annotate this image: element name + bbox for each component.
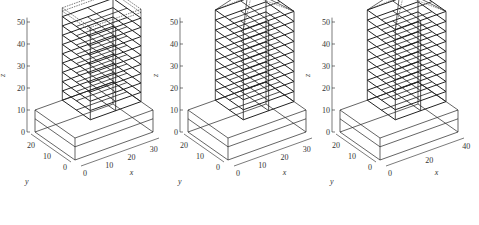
plot-panel-2: 01020304050z0102030x01020y	[151, 0, 312, 186]
y-tick-label: 10	[196, 152, 204, 161]
x-tick-label: 30	[303, 145, 311, 154]
x-tick-label: 20	[128, 153, 136, 162]
z-tick-label: 30	[17, 62, 25, 71]
z-tick-label: 10	[170, 106, 178, 115]
x-tick-label: 30	[150, 145, 158, 154]
z-axis-label: z	[0, 73, 7, 78]
z-tick-label: 50	[322, 18, 330, 27]
y-axis-label: y	[24, 177, 29, 186]
z-axis-label: z	[151, 73, 160, 78]
z-tick-label: 10	[17, 106, 25, 115]
x-tick-label: 0	[388, 169, 392, 178]
z-tick-label: 30	[170, 62, 178, 71]
y-tick-label: 10	[348, 152, 356, 161]
x-tick-label: 0	[236, 169, 240, 178]
z-tick-label: 40	[17, 40, 25, 49]
z-tick-label: 20	[322, 84, 330, 93]
z-tick-label: 50	[17, 18, 25, 27]
figure-canvas: 01020304050z0102030x01020y01020304050z01…	[0, 0, 479, 225]
y-axis-label: y	[177, 177, 182, 186]
y-axis-label: y	[329, 177, 334, 186]
x-tick-label: 20	[281, 153, 289, 162]
z-tick-label: 0	[174, 128, 178, 137]
y-tick-label: 10	[43, 152, 51, 161]
z-tick-label: 30	[322, 62, 330, 71]
x-axis-label: x	[129, 168, 134, 177]
y-tick-label: 20	[180, 141, 188, 150]
z-tick-label: 40	[170, 40, 178, 49]
z-tick-label: 0	[21, 128, 25, 137]
x-tick-label: 10	[258, 161, 266, 170]
z-axis-label: z	[303, 73, 312, 78]
x-axis-label: x	[434, 168, 439, 177]
y-tick-label: 0	[368, 163, 372, 172]
y-tick-label: 0	[216, 163, 220, 172]
z-tick-label: 20	[170, 84, 178, 93]
x-axis-label: x	[282, 168, 287, 177]
x-tick-label: 40	[462, 142, 470, 151]
z-tick-label: 20	[17, 84, 25, 93]
y-tick-label: 20	[332, 141, 340, 150]
x-tick-label: 0	[83, 169, 87, 178]
plot-panel-1: 01020304050z0102030x01020y	[0, 0, 159, 186]
z-tick-label: 40	[322, 40, 330, 49]
z-tick-label: 0	[326, 128, 330, 137]
z-tick-label: 50	[170, 18, 178, 27]
z-tick-label: 10	[322, 106, 330, 115]
y-tick-label: 20	[27, 141, 35, 150]
plot-panel-3: 01020304050z02040x01020y	[303, 0, 470, 186]
x-tick-label: 20	[425, 156, 433, 165]
x-tick-label: 10	[105, 161, 113, 170]
y-tick-label: 0	[63, 163, 67, 172]
